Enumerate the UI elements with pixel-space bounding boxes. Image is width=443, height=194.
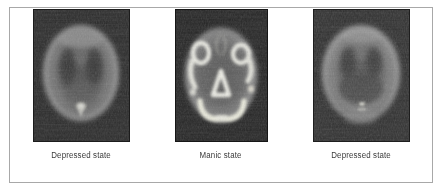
scan-panel-row: Depressed state (10, 8, 432, 182)
scan-panel-manic: Manic state (175, 9, 268, 161)
depressed-brain-image-right (313, 9, 410, 142)
manic-state-scan (175, 9, 268, 142)
scan-panel-depressed-right: Depressed state (313, 9, 410, 161)
scan-caption-depressed-right: Depressed state (331, 150, 391, 161)
scan-panel-depressed-left: Depressed state (33, 9, 130, 161)
depressed-state-scan-left (33, 9, 130, 142)
scan-caption-manic: Manic state (200, 150, 242, 161)
figure-root: Depressed state (0, 0, 443, 194)
depressed-brain-image-left (33, 9, 130, 142)
manic-brain-image (175, 9, 268, 142)
depressed-state-scan-right (313, 9, 410, 142)
scan-caption-depressed-left: Depressed state (51, 150, 111, 161)
